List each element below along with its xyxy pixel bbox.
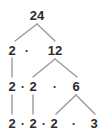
factor-tree-figure: 24212·226··2223··· — [0, 0, 106, 134]
tree-edge-12-to-2 — [33, 59, 55, 77]
multiplication-dot: · — [19, 44, 35, 58]
factor-tree-edges — [0, 0, 106, 134]
factor-node: 12 — [43, 44, 67, 58]
multiplication-dot: · — [66, 117, 82, 131]
multiplication-dot: · — [15, 117, 31, 131]
tree-edge-root-to-2 — [15, 24, 37, 41]
factor-node: 24 — [25, 9, 49, 23]
factor-node: 6 — [64, 80, 88, 94]
tree-edge-root-to-12 — [37, 24, 55, 41]
multiplication-dot: · — [15, 80, 31, 94]
multiplication-dot: · — [47, 80, 63, 94]
factor-node: 3 — [82, 117, 106, 131]
multiplication-dot: · — [36, 117, 52, 131]
tree-edge-6-to-3 — [76, 95, 95, 114]
tree-edge-12-to-6 — [55, 59, 77, 77]
tree-edge-6-to-2 — [56, 95, 76, 114]
